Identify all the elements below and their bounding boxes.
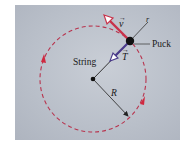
string-label: String bbox=[73, 57, 96, 67]
puck bbox=[126, 37, 134, 45]
puck-label: Puck bbox=[152, 39, 171, 49]
velocity-vector-accent: → bbox=[119, 14, 126, 22]
radial-axis-label: r bbox=[146, 15, 150, 24]
center-pivot bbox=[91, 77, 96, 82]
velocity-arrow bbox=[104, 15, 130, 41]
path-direction-arrow-right bbox=[140, 96, 145, 105]
tension-vector-accent: → bbox=[122, 46, 129, 54]
radius-label: R bbox=[110, 88, 117, 98]
circular-motion-diagram: v → T → r Puck String R bbox=[0, 0, 189, 152]
